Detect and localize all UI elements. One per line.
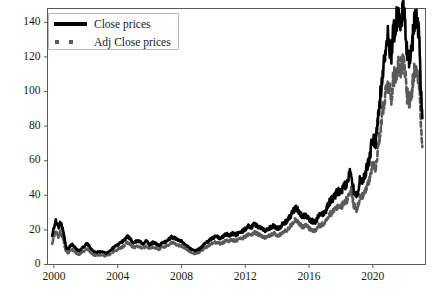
legend-entry-adj-close-prices: Adj Close prices — [49, 33, 178, 51]
y-tick-label: 100 — [23, 84, 41, 96]
chart-legend: Close prices Adj Close prices — [48, 13, 179, 50]
x-tick-label: 2012 — [234, 270, 257, 282]
x-tick-label: 2020 — [361, 270, 384, 282]
y-tick-label: 140 — [23, 15, 41, 27]
y-axis-ticks: 020406080100120140 — [23, 15, 47, 269]
x-axis-ticks: 200020042008201220162020 — [42, 265, 384, 282]
y-tick-label: 80 — [29, 119, 41, 131]
legend-dashed-line-icon — [54, 36, 87, 48]
y-tick-label: 20 — [29, 223, 41, 235]
y-tick-label: 0 — [35, 257, 41, 269]
legend-label-adj-close-prices: Adj Close prices — [94, 36, 171, 48]
y-tick-label: 120 — [23, 50, 41, 62]
legend-solid-line-icon — [54, 18, 87, 30]
x-tick-label: 2004 — [106, 270, 129, 282]
x-tick-label: 2016 — [298, 270, 321, 282]
x-tick-label: 2008 — [170, 270, 193, 282]
y-tick-label: 40 — [29, 188, 41, 200]
chart-figure: 020406080100120140 200020042008201220162… — [0, 0, 434, 298]
y-tick-label: 60 — [29, 153, 41, 165]
x-tick-label: 2000 — [42, 270, 65, 282]
legend-entry-close-prices: Close prices — [49, 15, 178, 33]
legend-label-close-prices: Close prices — [94, 18, 151, 30]
